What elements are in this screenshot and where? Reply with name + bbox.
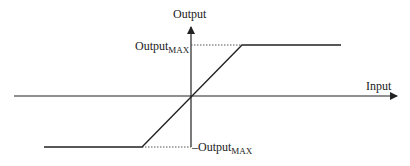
output-max-label: OutputMAX — [135, 40, 189, 55]
output-axis-label: Output — [173, 8, 206, 20]
input-axis-label: Input — [366, 80, 391, 92]
output-min-label: –OutputMAX — [192, 141, 252, 156]
